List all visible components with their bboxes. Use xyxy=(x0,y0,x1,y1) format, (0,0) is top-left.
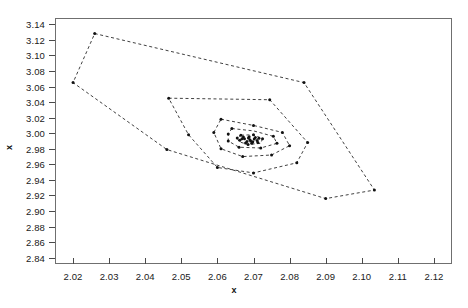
y-tick-label: 2.94 xyxy=(26,174,45,185)
data-point xyxy=(261,137,264,140)
x-tick-label: 2.02 xyxy=(64,271,83,282)
data-point xyxy=(272,135,275,138)
y-tick-label: 2.90 xyxy=(26,206,45,217)
data-point xyxy=(249,140,252,143)
data-point xyxy=(220,118,223,121)
x-tick-label: 2.12 xyxy=(425,271,444,282)
data-point xyxy=(373,189,376,192)
y-axis-title: x xyxy=(4,145,14,150)
data-point xyxy=(165,148,168,151)
y-tick-label: 2.84 xyxy=(26,252,45,263)
x-tick-label: 2.11 xyxy=(389,271,407,282)
data-point xyxy=(281,131,284,134)
hull-contour xyxy=(73,34,374,199)
data-point xyxy=(187,133,190,136)
x-tick-label: 2.04 xyxy=(136,271,155,282)
data-point xyxy=(252,171,255,174)
data-point xyxy=(295,161,298,164)
x-tick-label: 2.06 xyxy=(208,271,227,282)
data-point xyxy=(288,144,291,147)
x-axis-tick-labels: 2.022.032.042.052.062.072.082.092.102.11… xyxy=(55,265,452,285)
x-tick-label: 2.07 xyxy=(244,271,263,282)
data-point xyxy=(238,146,241,149)
x-axis-title: x xyxy=(0,285,468,295)
y-tick-label: 3.06 xyxy=(26,81,45,92)
y-tick-label: 3.00 xyxy=(26,128,45,139)
data-point xyxy=(252,124,255,127)
data-point xyxy=(240,137,243,140)
data-point xyxy=(256,141,259,144)
data-point xyxy=(270,154,273,157)
data-point xyxy=(216,166,219,169)
data-point xyxy=(239,134,242,137)
data-point xyxy=(230,127,233,130)
y-tick-label: 3.10 xyxy=(26,50,45,61)
y-tick-label: 2.96 xyxy=(26,159,45,170)
hull-contour xyxy=(214,119,290,156)
y-tick-label: 2.86 xyxy=(26,237,45,248)
y-tick-label: 3.02 xyxy=(26,112,45,123)
data-point xyxy=(93,32,96,35)
data-point xyxy=(257,137,260,140)
plot-area xyxy=(55,18,452,264)
hull-contour xyxy=(228,129,277,148)
x-tick-label: 2.08 xyxy=(280,271,299,282)
data-point xyxy=(72,81,75,84)
y-tick-label: 2.88 xyxy=(26,221,45,232)
y-tick-label: 3.08 xyxy=(26,65,45,76)
data-point xyxy=(252,133,255,136)
x-tick-label: 2.10 xyxy=(352,271,371,282)
data-point xyxy=(227,140,230,143)
data-point xyxy=(244,141,247,144)
y-axis-tick-labels: 2.842.862.882.902.922.942.962.983.003.02… xyxy=(0,18,55,264)
data-point xyxy=(306,141,309,144)
data-point xyxy=(167,97,170,100)
x-tick-label: 2.05 xyxy=(172,271,191,282)
data-point xyxy=(268,98,271,101)
data-point xyxy=(220,147,223,150)
data-point xyxy=(324,197,327,200)
y-tick-label: 2.98 xyxy=(26,143,45,154)
data-point xyxy=(303,81,306,84)
data-point xyxy=(227,132,230,135)
data-point xyxy=(236,136,239,139)
x-tick-label: 2.03 xyxy=(100,271,119,282)
y-tick-label: 3.14 xyxy=(26,19,45,30)
data-point xyxy=(259,147,262,150)
y-tick-label: 3.04 xyxy=(26,97,45,108)
x-tick-label: 2.09 xyxy=(316,271,335,282)
data-point xyxy=(247,136,250,139)
y-tick-label: 2.92 xyxy=(26,190,45,201)
chart-figure: 2.842.862.882.902.922.942.962.983.003.02… xyxy=(0,0,468,308)
y-tick-label: 3.12 xyxy=(26,34,45,45)
data-point xyxy=(253,138,256,141)
data-point xyxy=(241,155,244,158)
data-point xyxy=(212,131,215,134)
data-point xyxy=(275,142,278,145)
data-point xyxy=(247,143,250,146)
